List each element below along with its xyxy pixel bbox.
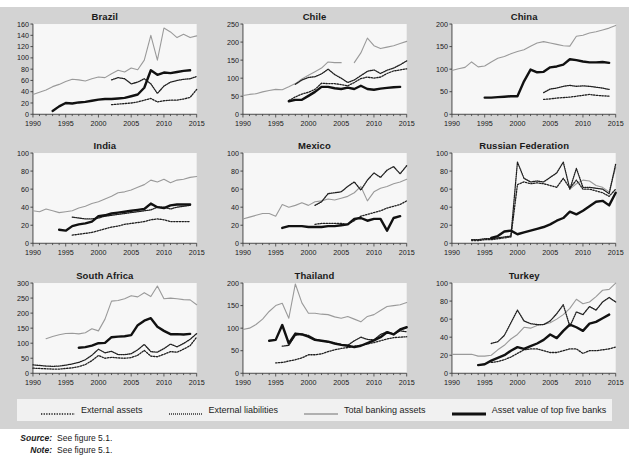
svg-text:50: 50	[440, 87, 448, 96]
svg-text:2010: 2010	[575, 248, 591, 257]
solid-line-icon	[452, 405, 486, 415]
svg-text:60: 60	[440, 185, 448, 194]
panel-mexico: Mexico 020406080100199019952000200520102…	[210, 136, 420, 265]
svg-text:80: 80	[21, 65, 29, 74]
figure-panel-grid: Brazil 020406080100120140160199019952000…	[0, 7, 629, 429]
svg-text:2005: 2005	[543, 119, 559, 128]
panel-china: China 0501001502001990199520002005201020…	[419, 7, 629, 136]
svg-text:1990: 1990	[235, 119, 251, 128]
plot-area: 0204060801001201401601990199520002005201…	[0, 7, 210, 136]
svg-text:2000: 2000	[510, 248, 526, 257]
figure-footnotes: Source: See figure 5.1. Note: See figure…	[0, 432, 629, 465]
svg-text:2015: 2015	[189, 248, 205, 257]
legend-label: External liabilities	[209, 405, 279, 415]
svg-text:1990: 1990	[444, 248, 460, 257]
svg-text:1990: 1990	[444, 119, 460, 128]
svg-text:1995: 1995	[267, 377, 283, 386]
svg-text:100: 100	[227, 323, 239, 332]
svg-text:0: 0	[235, 110, 239, 119]
svg-text:2000: 2000	[90, 119, 106, 128]
svg-text:2010: 2010	[366, 248, 382, 257]
chart-legend: External assets External liabilities Tot…	[17, 399, 612, 421]
svg-text:0: 0	[444, 369, 448, 378]
svg-text:80: 80	[21, 167, 29, 176]
svg-text:0: 0	[25, 239, 29, 248]
svg-text:2010: 2010	[575, 377, 591, 386]
svg-text:50: 50	[231, 346, 239, 355]
svg-text:1995: 1995	[267, 119, 283, 128]
svg-text:20: 20	[231, 221, 239, 230]
note-row: Note: See figure 5.1.	[0, 444, 629, 456]
svg-text:200: 200	[436, 20, 448, 29]
source-label: Source:	[0, 432, 52, 444]
svg-text:2010: 2010	[366, 119, 382, 128]
plot-area: 050100150200250199019952000200520102015	[210, 7, 420, 136]
svg-text:40: 40	[21, 203, 29, 212]
svg-text:1995: 1995	[477, 119, 493, 128]
legend-label: Asset value of top five banks	[492, 405, 607, 415]
svg-text:1995: 1995	[477, 377, 493, 386]
legend-label: Total banking assets	[344, 405, 426, 415]
svg-text:40: 40	[440, 203, 448, 212]
svg-text:80: 80	[440, 296, 448, 305]
svg-text:100: 100	[17, 149, 29, 158]
svg-text:250: 250	[227, 20, 239, 29]
svg-text:2000: 2000	[300, 377, 316, 386]
plot-area: 020406080100199019952000200520102015	[0, 136, 210, 265]
plot-area: 050100150200199019952000200520102015	[210, 266, 420, 395]
legend-item-asset-value-top-five-banks: Asset value of top five banks	[452, 405, 607, 415]
svg-text:40: 40	[440, 332, 448, 341]
svg-text:2000: 2000	[300, 248, 316, 257]
panel-brazil: Brazil 020406080100120140160199019952000…	[0, 7, 210, 136]
svg-text:2005: 2005	[333, 119, 349, 128]
svg-text:2005: 2005	[333, 248, 349, 257]
svg-text:2005: 2005	[543, 248, 559, 257]
note-text: See figure 5.1.	[57, 444, 112, 456]
svg-text:1995: 1995	[58, 248, 74, 257]
legend-item-total-banking-assets: Total banking assets	[304, 405, 426, 415]
svg-text:2015: 2015	[398, 248, 414, 257]
svg-text:1995: 1995	[477, 248, 493, 257]
panel-chile: Chile 0501001502002501990199520002005201…	[210, 7, 420, 136]
svg-text:80: 80	[440, 167, 448, 176]
svg-text:2000: 2000	[300, 119, 316, 128]
note-label: Note:	[0, 444, 52, 456]
svg-text:50: 50	[21, 353, 29, 362]
svg-text:100: 100	[436, 149, 448, 158]
svg-text:2015: 2015	[608, 377, 624, 386]
panel-south-africa: South Africa 050100150200250300199019952…	[0, 266, 210, 395]
legend-label: External assets	[81, 405, 143, 415]
plot-area: 0501001502002503001990199520002005201020…	[0, 266, 210, 395]
svg-text:100: 100	[17, 53, 29, 62]
svg-text:1990: 1990	[444, 377, 460, 386]
plot-area: 020406080100199019952000200520102015	[419, 136, 629, 265]
panel-russian-federation: Russian Federation 020406080100199019952…	[419, 136, 629, 265]
svg-text:120: 120	[17, 42, 29, 51]
svg-text:300: 300	[17, 278, 29, 287]
legend-item-external-assets: External assets	[41, 405, 143, 415]
svg-text:1990: 1990	[25, 377, 41, 386]
svg-text:1990: 1990	[235, 248, 251, 257]
svg-text:100: 100	[227, 74, 239, 83]
svg-text:2010: 2010	[575, 119, 591, 128]
svg-text:2005: 2005	[333, 377, 349, 386]
svg-text:2015: 2015	[398, 119, 414, 128]
svg-text:60: 60	[21, 185, 29, 194]
svg-text:160: 160	[17, 20, 29, 29]
dotted-line-icon	[169, 405, 203, 415]
svg-text:250: 250	[17, 293, 29, 302]
svg-text:2010: 2010	[156, 248, 172, 257]
svg-text:0: 0	[25, 110, 29, 119]
svg-text:2000: 2000	[90, 248, 106, 257]
svg-text:0: 0	[444, 110, 448, 119]
svg-text:20: 20	[440, 350, 448, 359]
svg-text:60: 60	[440, 314, 448, 323]
svg-text:100: 100	[17, 338, 29, 347]
svg-text:0: 0	[25, 369, 29, 378]
svg-text:150: 150	[436, 42, 448, 51]
svg-text:1995: 1995	[267, 248, 283, 257]
svg-text:80: 80	[231, 167, 239, 176]
svg-text:140: 140	[17, 31, 29, 40]
svg-text:200: 200	[17, 308, 29, 317]
svg-text:2015: 2015	[608, 119, 624, 128]
